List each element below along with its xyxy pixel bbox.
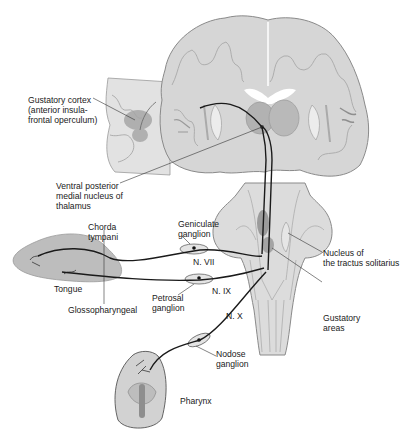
label-nerve-vii: N. VII — [193, 257, 215, 267]
label-vpm-thalamus: Ventral posterior medial nucleus of thal… — [56, 181, 123, 211]
label-nerve-x: N. X — [226, 311, 243, 321]
label-nodose-ganglion: Nodose ganglion — [216, 349, 249, 369]
label-nerve-ix: N. IX — [212, 286, 231, 296]
label-pharynx: Pharynx — [180, 396, 212, 406]
coronal-brain-section — [160, 16, 369, 176]
label-glossopharyngeal: Glossopharyngeal — [68, 305, 137, 315]
brainstem — [213, 183, 332, 355]
label-tongue: Tongue — [54, 284, 82, 294]
label-gustatory-cortex: Gustatory cortex (anterior insula- front… — [28, 95, 97, 125]
label-geniculate-ganglion: Geniculate ganglion — [178, 219, 219, 239]
label-gustatory-areas: Gustatory areas — [323, 313, 360, 333]
vagus-fiber — [150, 272, 266, 370]
label-chorda-tympani: Chorda tympani — [88, 222, 118, 242]
pharynx — [115, 351, 166, 428]
label-petrosal-ganglion: Petrosal ganglion — [152, 293, 185, 313]
label-nucleus-tractus-solitarius: Nucleus of the tractus solitarius — [323, 248, 399, 268]
